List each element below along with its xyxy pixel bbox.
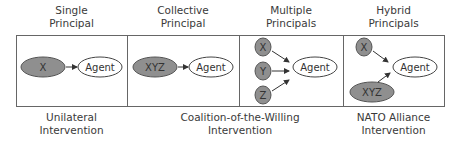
node-label: X [361, 42, 368, 53]
panel-hybrid-principals: X XYZ Agent [350, 38, 437, 102]
arrow [272, 51, 289, 62]
caption-unilateral-intervention: Unilateral Intervention [16, 111, 127, 137]
caption-line: Intervention [160, 124, 320, 137]
node-label: Agent [400, 62, 430, 73]
arrow [378, 73, 390, 82]
caption-line: Intervention [16, 124, 127, 137]
panel-multiple-principals: X Y Z Agent [255, 38, 337, 104]
caption-coalition-intervention: Coalition-of-the-Willing Intervention [160, 111, 320, 137]
node-label: XYZ [145, 62, 165, 73]
caption-line: NATO Alliance [343, 111, 444, 124]
node-label: X [40, 62, 47, 73]
arrow [272, 80, 289, 91]
node-label: Agent [300, 62, 330, 73]
node-label: XYZ [362, 87, 382, 98]
panel-single-principal: X Agent [21, 57, 122, 77]
node-label: X [260, 42, 267, 53]
arrow [373, 51, 388, 62]
node-label: Z [260, 90, 267, 101]
caption-line: Coalition-of-the-Willing [160, 111, 320, 124]
caption-line: Unilateral [16, 111, 127, 124]
panel-collective-principal: XYZ Agent [133, 57, 233, 77]
node-label: Agent [85, 62, 115, 73]
node-label: Agent [196, 62, 226, 73]
caption-line: Intervention [343, 124, 444, 137]
node-label: Y [259, 66, 267, 77]
caption-nato-alliance-intervention: NATO Alliance Intervention [343, 111, 444, 137]
